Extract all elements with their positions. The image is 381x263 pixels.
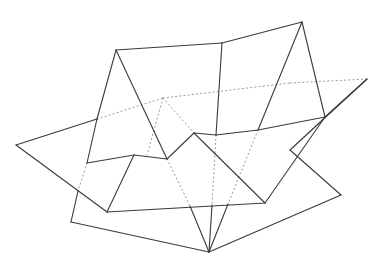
solid-edge-line (16, 145, 107, 212)
dotted-fold-line (212, 135, 216, 205)
dotted-fold-line (163, 83, 290, 98)
solid-edge-line (258, 22, 302, 130)
solid-edge-line (97, 50, 116, 119)
dotted-fold-line (163, 98, 194, 133)
solid-edge-line (216, 130, 258, 135)
solid-edge-line (222, 22, 302, 43)
solid-edge-line (87, 155, 134, 163)
solid-edge-line (71, 191, 78, 222)
solid-edge-line (134, 155, 167, 159)
solid-edge-line (302, 22, 325, 117)
solid-edge-line (216, 43, 222, 135)
dotted-fold-line (290, 79, 367, 83)
solid-edge-line (87, 119, 97, 163)
solid-edge-line (258, 117, 325, 130)
solid-edge-line (167, 133, 194, 159)
folded-net-diagram (0, 0, 381, 263)
solid-edge-line (194, 133, 265, 203)
solid-edge-line (209, 195, 341, 252)
solid-edge-line (190, 206, 209, 252)
dotted-fold-line (167, 159, 190, 206)
solid-edge-line (107, 203, 265, 212)
dotted-fold-line (228, 130, 258, 204)
solid-edge-line (194, 133, 216, 135)
solid-edge-line (265, 117, 325, 203)
solid-edge-line (290, 79, 367, 150)
solid-edge-line (16, 119, 97, 145)
hidden-fold-lines (78, 79, 367, 206)
visible-edge-lines (16, 22, 367, 252)
solid-edge-line (107, 155, 134, 212)
dotted-fold-line (78, 163, 87, 191)
solid-edge-line (116, 50, 167, 159)
solid-edge-line (116, 43, 222, 50)
solid-edge-line (71, 222, 209, 252)
dotted-fold-line (97, 98, 163, 119)
